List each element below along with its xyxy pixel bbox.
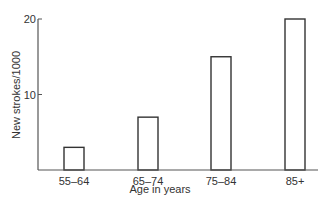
bar-chart: 55–6465–7475–8485+ 1020 Age in years New… — [0, 0, 320, 209]
x-tick-label: 85+ — [286, 175, 305, 187]
y-tick-label: 20 — [24, 13, 36, 25]
bar-4 — [285, 19, 305, 170]
bar-1 — [64, 147, 84, 170]
x-tick-label: 55–64 — [59, 175, 90, 187]
y-axis: 1020 — [24, 13, 42, 170]
y-tick-label: 10 — [24, 89, 36, 101]
y-axis-title: New strokes/1000 — [10, 51, 22, 139]
bars-group — [64, 19, 305, 170]
bar-3 — [211, 57, 231, 170]
bar-2 — [138, 117, 158, 170]
x-axis-title: Age in years — [129, 183, 191, 195]
x-tick-label: 75–84 — [206, 175, 237, 187]
